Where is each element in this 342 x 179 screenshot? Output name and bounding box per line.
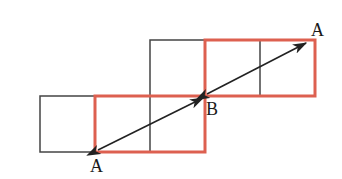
label-a-top: A [311, 20, 324, 40]
label-a-bottom: A [90, 156, 103, 176]
figure-container: A B A [0, 0, 342, 179]
translation-vector-figure: A B A [0, 0, 342, 179]
label-b-center: B [206, 99, 218, 119]
black-square-lower-left [40, 96, 95, 152]
black-square-middle [150, 40, 205, 96]
arrow-b-to-a [207, 43, 306, 94]
